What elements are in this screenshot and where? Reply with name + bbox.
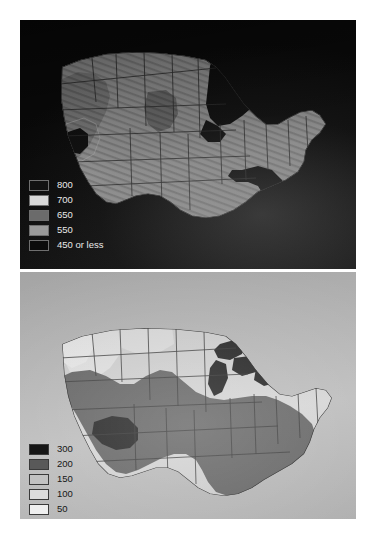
legend-item: 700 bbox=[29, 193, 103, 207]
lower-map-legend: 300 200 150 100 50 bbox=[29, 442, 73, 517]
legend-label: 800 bbox=[57, 180, 73, 190]
upper-map-legend: 800 700 650 550 450 or less bbox=[29, 178, 103, 253]
legend-item: 200 bbox=[29, 457, 73, 471]
legend-item: 50 bbox=[29, 502, 73, 516]
legend-label: 550 bbox=[57, 225, 73, 235]
legend-label: 700 bbox=[57, 195, 73, 205]
legend-item: 100 bbox=[29, 487, 73, 501]
swatch-100 bbox=[29, 489, 49, 500]
legend-label: 650 bbox=[57, 210, 73, 220]
swatch-800 bbox=[29, 180, 49, 191]
legend-label: 50 bbox=[57, 504, 68, 514]
legend-item: 650 bbox=[29, 208, 103, 222]
legend-item: 800 bbox=[29, 178, 103, 192]
legend-item: 300 bbox=[29, 442, 73, 456]
legend-label: 200 bbox=[57, 459, 73, 469]
legend-item: 150 bbox=[29, 472, 73, 486]
legend-label: 150 bbox=[57, 474, 73, 484]
legend-label: 300 bbox=[57, 444, 73, 454]
legend-item: 450 or less bbox=[29, 238, 103, 252]
swatch-300 bbox=[29, 444, 49, 455]
legend-label: 450 or less bbox=[57, 240, 103, 250]
legend-item: 550 bbox=[29, 223, 103, 237]
swatch-150 bbox=[29, 474, 49, 485]
upper-map-panel: 800 700 650 550 450 or less bbox=[20, 20, 356, 269]
swatch-700 bbox=[29, 195, 49, 206]
lower-map-panel: December bbox=[20, 272, 356, 519]
swatch-650 bbox=[29, 210, 49, 221]
swatch-450 bbox=[29, 240, 49, 251]
swatch-50 bbox=[29, 504, 49, 515]
legend-label: 100 bbox=[57, 489, 73, 499]
swatch-200 bbox=[29, 459, 49, 470]
swatch-550 bbox=[29, 225, 49, 236]
